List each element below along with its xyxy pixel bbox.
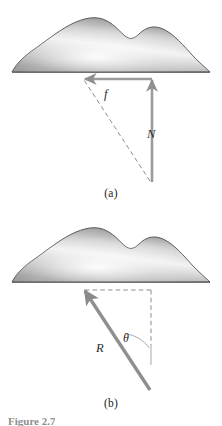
panel-caption-b: (b) [0,397,222,409]
angle-label-theta: θ [123,331,129,346]
terrain-hill-b [12,228,210,282]
panel-a-group [12,18,210,182]
vector-label-R: R [96,341,104,356]
vector-label-f: f [104,87,107,102]
figure-number-caption: Figure 2.7 [8,415,55,426]
dashed-resultant-a [84,80,150,181]
vector-label-N: N [147,127,155,142]
panel-caption-a: (a) [0,187,222,199]
panel-b-group [12,228,210,390]
physics-figure: f N (a) R θ (b) Figure 2.7 [0,0,222,426]
vector-R-arrow [85,291,150,390]
terrain-hill-a [12,18,210,72]
figure-canvas [0,0,222,426]
angle-arc-theta [126,334,150,349]
